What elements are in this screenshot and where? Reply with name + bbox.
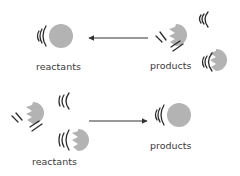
- fragment-particle: [156, 24, 187, 51]
- fragment-particle: [59, 129, 89, 151]
- motion-lines: [200, 12, 209, 27]
- label-products-top: products: [150, 60, 192, 71]
- label-reactants-bottom: reactants: [32, 156, 77, 167]
- motion-lines: [59, 93, 69, 109]
- fragment-particle: [12, 102, 44, 131]
- fragment-particle: [203, 49, 228, 71]
- label-products-bottom: products: [150, 140, 192, 151]
- label-reactants-top: reactants: [36, 61, 81, 72]
- bottom-panel: reactants products: [12, 93, 192, 167]
- top-panel: reactants products: [36, 12, 227, 72]
- intact-particle: [156, 103, 192, 127]
- reaction-diagram: reactants products: [0, 0, 240, 176]
- intact-particle: [38, 24, 74, 48]
